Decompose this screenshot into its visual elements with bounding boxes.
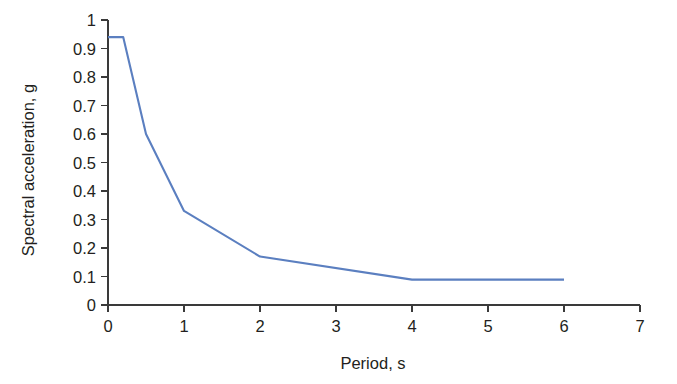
y-tick-label: 0.5 xyxy=(73,154,96,172)
x-tick-label: 5 xyxy=(483,317,492,335)
y-tick-label: 0.3 xyxy=(73,211,96,229)
x-axis-title: Period, s xyxy=(340,354,405,372)
x-tick-label: 7 xyxy=(635,317,644,335)
response-spectrum-chart: 00.10.20.30.40.50.60.70.80.91 01234567 S… xyxy=(0,0,677,384)
y-tick-label: 0.2 xyxy=(73,239,96,257)
y-tick-label: 0.7 xyxy=(73,97,96,115)
x-tick-label: 1 xyxy=(179,317,188,335)
y-tick-label: 0 xyxy=(87,296,96,314)
y-tick-label: 0.9 xyxy=(73,40,96,58)
y-axis-title: Spectral acceleration, g xyxy=(19,84,37,256)
chart-figure: 00.10.20.30.40.50.60.70.80.91 01234567 S… xyxy=(0,0,677,384)
y-tick-label: 0.6 xyxy=(73,125,96,143)
y-tick-label: 0.1 xyxy=(73,268,96,286)
y-tick-label: 0.4 xyxy=(73,182,96,200)
x-tick-label: 4 xyxy=(407,317,416,335)
x-tick-label: 0 xyxy=(103,317,112,335)
x-tick-label: 3 xyxy=(331,317,340,335)
y-tick-label: 0.8 xyxy=(73,68,96,86)
y-tick-label: 1 xyxy=(87,11,96,29)
x-tick-label: 6 xyxy=(559,317,568,335)
x-tick-label: 2 xyxy=(255,317,264,335)
